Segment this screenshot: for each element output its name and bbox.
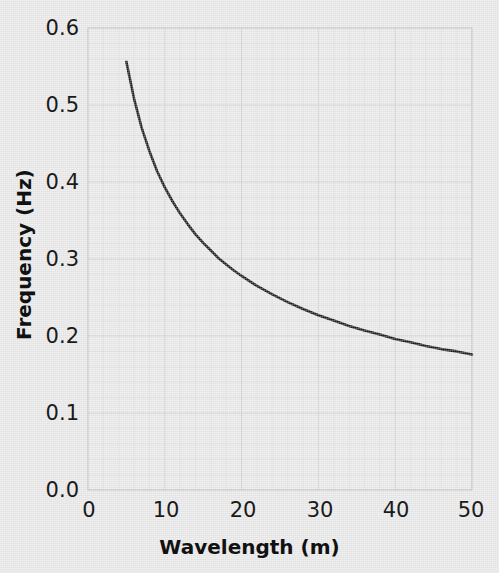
y-tick-label: 0.2 — [46, 324, 79, 348]
y-tick-label: 0.4 — [46, 170, 79, 194]
x-tick-label: 50 — [458, 498, 485, 522]
y-tick-label: 0.1 — [46, 401, 79, 425]
y-axis-label: Frequency (Hz) — [12, 169, 36, 340]
y-tick-label: 0.5 — [46, 93, 79, 117]
x-axis-label: Wavelength (m) — [0, 535, 499, 559]
x-tick-label: 40 — [383, 498, 410, 522]
x-tick-label: 0 — [82, 498, 95, 522]
x-tick-label: 20 — [230, 498, 257, 522]
x-tick-label: 10 — [153, 498, 180, 522]
y-tick-label: 0.3 — [46, 247, 79, 271]
x-tick-label: 30 — [307, 498, 334, 522]
y-tick-label: 0.0 — [46, 478, 79, 502]
chart-figure: 0.6 0.5 0.4 0.3 0.2 0.1 0.0 0 10 20 30 4… — [0, 0, 499, 573]
y-tick-label: 0.6 — [46, 16, 79, 40]
